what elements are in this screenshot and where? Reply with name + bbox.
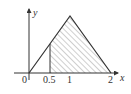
tick-label-1: 1 <box>67 74 72 85</box>
x-axis-label: x <box>119 72 125 83</box>
tick-label-2: 2 <box>108 74 113 85</box>
tick-label-0-5: 0.5 <box>43 74 56 85</box>
y-axis-label: y <box>32 7 38 18</box>
origin-label: 0 <box>22 74 27 85</box>
shaded-region <box>50 16 111 73</box>
triangle-diagram: y x 0 0.5 1 2 <box>0 0 131 94</box>
